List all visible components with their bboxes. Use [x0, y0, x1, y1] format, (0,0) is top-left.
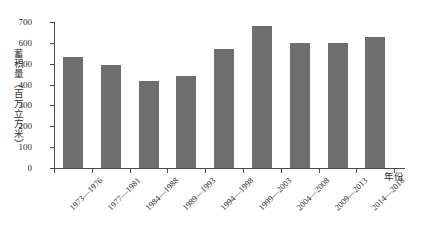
y-tick-label: 200 [0, 122, 32, 131]
y-tick-mark [50, 126, 54, 127]
x-tick-mark [54, 169, 55, 173]
bar-1 [101, 65, 121, 168]
y-tick-label: 0 [0, 164, 32, 173]
x-tick-mark [205, 169, 206, 173]
y-tick-label: 400 [0, 81, 32, 90]
x-tick-mark [92, 169, 93, 173]
x-axis-line [54, 168, 405, 169]
y-tick-mark [50, 64, 54, 65]
x-tick-mark [243, 169, 244, 173]
bar-chart: 蓄积量（百万立方米） 700 600 500 400 300 200 100 0 [0, 0, 422, 225]
x-tick-mark [319, 169, 320, 173]
y-tick-label: 600 [0, 39, 32, 48]
x-tick-mark [167, 169, 168, 173]
bar-4 [214, 49, 234, 168]
y-tick-label: 500 [0, 60, 32, 69]
x-tick-mark [281, 169, 282, 173]
y-tick-label: 700 [0, 18, 32, 27]
y-tick-mark [50, 22, 54, 23]
y-tick-mark [50, 105, 54, 106]
bar-0 [63, 57, 83, 168]
y-tick-mark [50, 85, 54, 86]
bar-7 [328, 43, 348, 168]
y-tick-label: 100 [0, 143, 32, 152]
y-tick-mark [50, 43, 54, 44]
plot-area: 700 600 500 400 300 200 100 0 1973—1976 … [54, 22, 405, 168]
y-tick-label: 300 [0, 101, 32, 110]
bar-3 [176, 76, 196, 168]
bar-5 [252, 26, 272, 168]
x-axis-title: 年份 [384, 172, 404, 182]
y-axis-line [54, 22, 55, 168]
x-tick-mark [130, 169, 131, 173]
bar-8 [365, 37, 385, 168]
x-tick-mark [356, 169, 357, 173]
y-tick-mark [50, 147, 54, 148]
bar-2 [139, 81, 159, 168]
bar-6 [290, 43, 310, 168]
